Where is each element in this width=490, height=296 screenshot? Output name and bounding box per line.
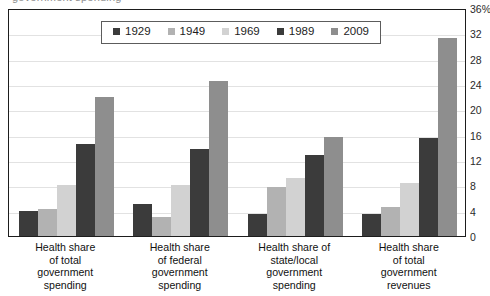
legend-swatch-icon: [222, 28, 229, 35]
y-axis-tick-label: 16: [470, 131, 482, 142]
bar-1969[interactable]: [57, 185, 76, 236]
y-axis-tick-label: 20: [470, 105, 482, 116]
x-axis-label-line: government: [8, 266, 123, 279]
legend-label: 1949: [180, 26, 206, 38]
bar-1989[interactable]: [419, 138, 438, 236]
x-axis-label-line: spending: [8, 279, 123, 292]
legend-swatch-icon: [168, 28, 175, 35]
chart-legend: 19291949196919892009: [101, 21, 381, 44]
y-axis-tick-label: 0: [470, 232, 476, 243]
bar-1989[interactable]: [76, 144, 95, 236]
legend-item-1929[interactable]: 1929: [113, 26, 151, 38]
bars-layer: [9, 10, 465, 236]
bar-1929[interactable]: [248, 214, 267, 236]
x-axis-category-label: Health shareof federalgovernmentspending: [123, 241, 238, 291]
bar-group: [9, 10, 124, 236]
bar-2009[interactable]: [438, 38, 457, 236]
bar-1949[interactable]: [267, 187, 286, 236]
bar-2009[interactable]: [324, 137, 343, 236]
legend-item-1969[interactable]: 1969: [222, 26, 260, 38]
bar-group: [238, 10, 353, 236]
legend-label: 1989: [289, 26, 315, 38]
x-axis: Health shareof totalgovernmentspendingHe…: [8, 241, 466, 296]
x-axis-category-label: Health share ofstate/localgovernmentspen…: [237, 241, 352, 291]
x-axis-label-line: government: [237, 266, 352, 279]
x-axis-category-label: Health shareof totalgovernmentspending: [8, 241, 123, 291]
y-axis-tick-label: 28: [470, 55, 482, 66]
legend-swatch-icon: [277, 28, 284, 35]
x-axis-category-label: Health shareof totalgovernmentrevenues: [352, 241, 467, 291]
x-axis-label-line: Health share: [352, 241, 467, 254]
x-axis-label-line: spending: [123, 279, 238, 292]
legend-swatch-icon: [113, 28, 120, 35]
bar-1969[interactable]: [171, 185, 190, 236]
y-axis-tick-label: 8: [470, 181, 476, 192]
y-axis-tick-label: 24: [470, 80, 482, 91]
x-axis-label-line: of federal: [123, 254, 238, 267]
x-axis-label-line: Health share: [123, 241, 238, 254]
bar-1929[interactable]: [362, 214, 381, 236]
x-axis-label-line: of total: [352, 254, 467, 267]
legend-swatch-icon: [331, 28, 338, 35]
legend-label: 1929: [125, 26, 151, 38]
bar-1989[interactable]: [190, 149, 209, 236]
x-axis-label-line: Health share of: [237, 241, 352, 254]
x-axis-label-line: Health share: [8, 241, 123, 254]
y-axis-tick-label: 36%: [470, 4, 490, 15]
x-axis-label-line: of total: [8, 254, 123, 267]
clipped-header-text: government spending: [12, 0, 312, 3]
bar-1949[interactable]: [152, 217, 171, 236]
bar-2009[interactable]: [95, 97, 114, 236]
x-axis-label-line: government: [123, 266, 238, 279]
y-axis-tick-label: 4: [470, 207, 476, 218]
bar-1949[interactable]: [38, 209, 57, 236]
bar-1989[interactable]: [305, 155, 324, 236]
x-axis-label-line: revenues: [352, 279, 467, 292]
bar-1969[interactable]: [400, 183, 419, 236]
x-axis-label-line: spending: [237, 279, 352, 292]
chart-screenshot: government spending 19291949196919892009…: [0, 0, 490, 296]
legend-item-2009[interactable]: 2009: [331, 26, 369, 38]
legend-label: 2009: [343, 26, 369, 38]
bar-group: [124, 10, 239, 236]
bar-1969[interactable]: [286, 178, 305, 236]
bar-group: [353, 10, 468, 236]
legend-item-1989[interactable]: 1989: [277, 26, 315, 38]
x-axis-label-line: government: [352, 266, 467, 279]
legend-label: 1969: [234, 26, 260, 38]
bar-1929[interactable]: [133, 204, 152, 236]
y-axis: 36%322824201612840: [470, 0, 490, 246]
x-axis-label-line: state/local: [237, 254, 352, 267]
bar-1929[interactable]: [19, 211, 38, 236]
legend-item-1949[interactable]: 1949: [168, 26, 206, 38]
bar-2009[interactable]: [209, 81, 228, 236]
bar-1949[interactable]: [381, 207, 400, 236]
y-axis-tick-label: 32: [470, 29, 482, 40]
y-axis-tick-label: 12: [470, 156, 482, 167]
